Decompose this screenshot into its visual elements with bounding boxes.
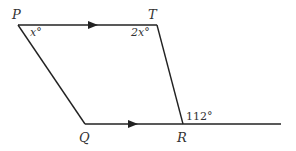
point-label-Q: Q	[79, 130, 90, 145]
segment-TR	[157, 25, 183, 124]
point-label-P: P	[11, 7, 21, 22]
point-label-R: R	[176, 130, 187, 145]
angle-label-P: x°	[30, 26, 42, 39]
point-label-T: T	[148, 7, 158, 22]
parallel-arrow-icon	[88, 21, 98, 29]
geometry-diagram: P T Q R x° 2x° 112°	[0, 0, 296, 151]
angle-label-T: 2x°	[130, 26, 150, 39]
parallel-arrow-icon	[128, 120, 138, 128]
angle-label-R-exterior: 112°	[186, 110, 213, 123]
segment-PQ	[18, 25, 85, 124]
